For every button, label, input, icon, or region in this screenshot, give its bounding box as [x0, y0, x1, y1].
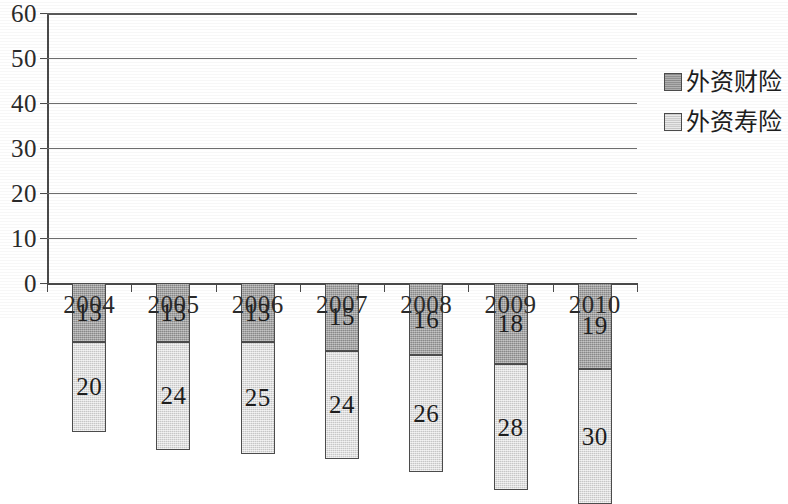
bar-value-label: 20 [76, 374, 102, 399]
bar-segment[interactable]: 30 [578, 369, 612, 504]
x-axis-category-label: 2006 [232, 292, 284, 317]
bar-segment[interactable]: 25 [241, 342, 275, 455]
legend-item-property-insurance[interactable]: 外资财险 [664, 62, 788, 102]
legend-item-life-insurance[interactable]: 外资寿险 [664, 102, 788, 142]
bar-value-label: 24 [329, 392, 355, 417]
bar-segment[interactable]: 28 [494, 364, 528, 490]
y-axis-tick [40, 238, 47, 239]
bar-value-label: 25 [245, 385, 271, 410]
y-axis-tick [40, 58, 47, 59]
legend-swatch-icon-dark [664, 73, 682, 91]
bar-segment[interactable]: 24 [156, 342, 190, 450]
y-axis-tick [40, 13, 47, 14]
bar-segment[interactable]: 26 [409, 355, 443, 472]
x-axis-tick [300, 283, 301, 292]
bar-value-label: 24 [160, 383, 186, 408]
x-axis-tick [468, 283, 469, 292]
bar-stack[interactable]: 2616 [409, 94, 443, 283]
plot-area: 0102030405060 20132413251324152616281830… [47, 13, 637, 283]
x-axis-tick [131, 283, 132, 292]
x-axis-tick [553, 283, 554, 292]
bar-value-label: 30 [582, 424, 608, 449]
gridline [47, 58, 637, 59]
x-axis-category-label: 2007 [316, 292, 368, 317]
legend-label: 外资财险 [686, 70, 782, 94]
x-axis-category-label: 2008 [400, 292, 452, 317]
y-axis-tick [40, 103, 47, 104]
x-axis-tick [47, 283, 48, 292]
x-axis-tick [637, 283, 638, 292]
bar-segment[interactable]: 20 [72, 342, 106, 432]
gridline [47, 103, 637, 104]
x-axis-category-label: 2010 [569, 292, 621, 317]
y-axis-tick-label: 60 [11, 1, 37, 26]
y-axis-tick-label: 0 [24, 271, 37, 296]
y-axis-tick-label: 50 [11, 46, 37, 71]
x-axis-category-label: 2004 [63, 292, 115, 317]
bar-stack[interactable]: 2013 [72, 135, 106, 284]
chart-legend: 外资财险 外资寿险 [664, 62, 788, 142]
x-axis-category-label: 2005 [147, 292, 199, 317]
y-axis-tick [40, 283, 47, 284]
gridline [47, 13, 637, 15]
bar-stack[interactable]: 2415 [325, 108, 359, 284]
bar-stack[interactable]: 2513 [241, 112, 275, 283]
bar-segment[interactable]: 24 [325, 351, 359, 459]
x-axis-tick [216, 283, 217, 292]
x-axis-tick [384, 283, 385, 292]
legend-label: 外资寿险 [686, 110, 782, 134]
y-axis-tick-label: 20 [11, 181, 37, 206]
bar-stack[interactable]: 2818 [494, 76, 528, 283]
bar-value-label: 28 [498, 415, 524, 440]
y-axis-tick [40, 148, 47, 149]
y-axis-tick-label: 40 [11, 91, 37, 116]
bar-value-label: 26 [413, 401, 439, 426]
bar-stack[interactable]: 2413 [156, 117, 190, 284]
x-axis-category-label: 2009 [485, 292, 537, 317]
bar-stack[interactable]: 3019 [578, 63, 612, 284]
legend-swatch-icon-light [664, 113, 682, 131]
y-axis-tick [40, 193, 47, 194]
y-axis-tick-label: 10 [11, 226, 37, 251]
y-axis-tick-label: 30 [11, 136, 37, 161]
